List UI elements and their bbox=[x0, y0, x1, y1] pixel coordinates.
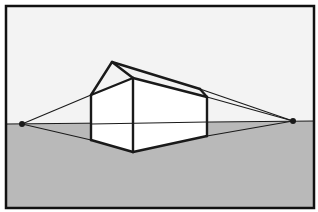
perspective-canvas bbox=[0, 0, 318, 212]
perspective-diagram bbox=[0, 0, 318, 212]
left-vanishing-point bbox=[19, 121, 25, 127]
right-vanishing-point bbox=[290, 118, 296, 124]
